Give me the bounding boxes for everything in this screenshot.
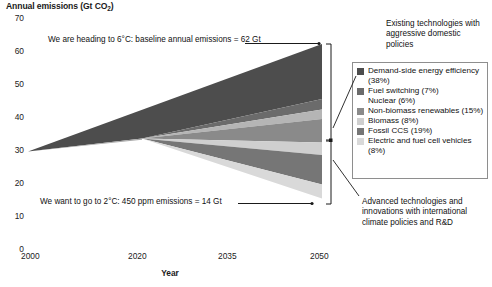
legend-item-biomass: Biomass (8%) — [357, 116, 485, 126]
legend-label-fuel-switching: Fuel switching (7%) — [368, 86, 439, 96]
x-tick-2050: 2050 — [310, 252, 329, 261]
legend-swatch-icon-biomass — [357, 118, 364, 125]
baseline-annotation-text-a: We are heading to 6 — [48, 35, 122, 44]
x-tick-2035: 2035 — [218, 252, 237, 261]
callout-existing-technologies: Existing technologies with aggressive do… — [386, 19, 490, 50]
legend-label-electric-and-fuel-cell-vehicles: Electric and fuel cell vehicles (8%) — [368, 136, 485, 156]
y-tick-70: 70 — [2, 14, 24, 23]
legend-swatch-icon-fuel-switching — [357, 88, 364, 95]
legend-label-non-biomass-renewables: Non-biomass renewables (15%) — [368, 106, 483, 116]
legend-swatch-icon-fossil-ccs — [357, 128, 364, 135]
legend-item-fossil-ccs: Fossil CCS (19%) — [357, 126, 485, 136]
y-tick-20: 20 — [2, 179, 24, 188]
legend-swatch-icon-electric-and-fuel-cell-vehicles — [357, 138, 364, 145]
legend: Demand-side energy efficiency (38%) Fuel… — [352, 62, 488, 179]
chart-title-subscript: 2 — [107, 5, 110, 12]
legend-label-demand-side-energy-efficiency: Demand-side energy efficiency (38%) — [368, 66, 485, 86]
legend-item-demand-side-energy-efficiency: Demand-side energy efficiency (38%) — [357, 66, 485, 86]
y-tick-60: 60 — [2, 47, 24, 56]
target-annotation-text-a: We want to go to 2 — [40, 197, 108, 206]
wedge-area-svg — [28, 18, 322, 246]
chart-title-main: Annual emissions (Gt CO — [6, 1, 107, 11]
x-tick-2000: 2000 — [21, 252, 40, 261]
y-tick-10: 10 — [2, 212, 24, 221]
plot-area — [28, 18, 322, 246]
legend-label-nuclear: Nuclear (6%) — [368, 96, 415, 106]
baseline-annotation: We are heading to 6°C: baseline annual e… — [48, 35, 261, 45]
chart-title-tail: ) — [111, 1, 114, 11]
legend-item-electric-and-fuel-cell-vehicles: Electric and fuel cell vehicles (8%) — [357, 136, 485, 156]
emissions-wedge-chart: Annual emissions (Gt CO2) 70 60 50 40 30… — [0, 0, 492, 287]
legend-item-fuel-switching: Fuel switching (7%) — [357, 86, 485, 96]
legend-swatch-icon-non-biomass-renewables — [357, 108, 364, 115]
legend-swatch-icon-demand-side-energy-efficiency — [357, 68, 364, 75]
legend-swatch-icon-nuclear — [357, 98, 364, 105]
y-tick-30: 30 — [2, 146, 24, 155]
chart-title: Annual emissions (Gt CO2) — [6, 1, 114, 11]
legend-label-fossil-ccs: Fossil CCS (19%) — [368, 126, 432, 136]
x-tick-2020: 2020 — [128, 252, 147, 261]
y-tick-50: 50 — [2, 80, 24, 89]
legend-item-nuclear: Nuclear (6%) — [357, 96, 485, 106]
target-annotation-text-b: C: 450 ppm emissions = 14 Gt — [111, 197, 221, 206]
legend-label-biomass: Biomass (8%) — [368, 116, 418, 126]
target-annotation: We want to go to 2°C: 450 ppm emissions … — [40, 197, 222, 207]
x-axis-title: Year — [0, 268, 340, 278]
legend-item-non-biomass-renewables: Non-biomass renewables (15%) — [357, 106, 485, 116]
callout-advanced-technologies: Advanced technologies and innovations wi… — [362, 197, 490, 228]
baseline-annotation-text-b: C: baseline annual emissions = 62 Gt — [125, 35, 261, 44]
y-tick-40: 40 — [2, 113, 24, 122]
